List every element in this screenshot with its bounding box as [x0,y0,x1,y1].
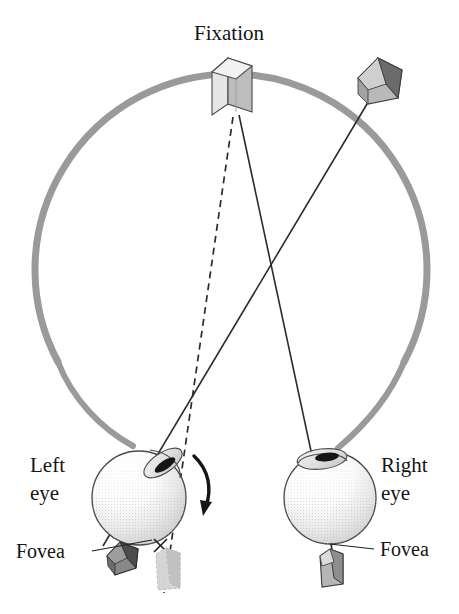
right-image-box [320,549,343,587]
left-image-ghost-box [156,548,180,590]
left-eye-label-line2: eye [30,481,59,505]
viewing-arc [35,74,427,362]
fixation-target-object [212,58,252,115]
left-eye-group [92,442,212,552]
far-target-object [358,58,402,104]
left-eye-rotation-arrow [194,456,212,516]
right-eyeball-texture [284,470,376,544]
figure-root: Fixation Left eye Right eye Fovea Fovea [0,0,459,614]
right-eye-label-line2: eye [381,481,410,505]
fovea-right-leader [330,544,374,549]
fixation-label: Fixation [194,21,265,45]
left-eye-label-line1: Left [30,453,65,477]
right-eye-group [284,446,376,544]
left-eye-retinal-images [107,542,180,590]
binocular-fixation-diagram: Fixation Left eye Right eye Fovea Fovea [0,0,459,614]
fovea-left-label: Fovea [16,540,65,562]
fovea-right-label: Fovea [380,538,429,560]
viewing-arc-left-tail [58,362,133,446]
right-eye-label-line1: Right [381,453,428,477]
viewing-arc-right-tail [338,362,404,448]
